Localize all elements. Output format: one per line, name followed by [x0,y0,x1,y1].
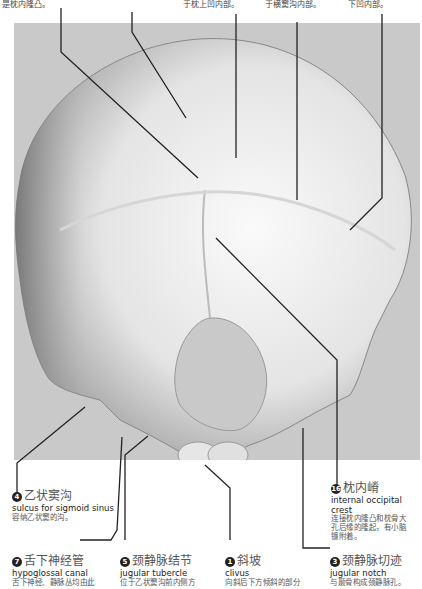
label-zh: 颈静脉切迹 [342,555,402,569]
label-hypoglossal-canal: 7 舌下神经管 hypoglossal canal 舌下神经、静脉丛均由此 [12,555,95,587]
label-zh: 枕内嵴 [343,482,379,496]
label-desc: 位于乙状窦沟前内侧方 [120,579,195,588]
label-jugular-tubercle: 5 颈静脉结节 jugular tubercle 位于乙状窦沟前内侧方 [120,555,195,587]
number-badge: 5 [120,557,130,567]
label-internal-occipital-crest: 16 枕内嵴 internal occipital crest 连接枕内隆凸和枕… [331,482,422,541]
label-en: internal occipital crest [331,496,422,516]
label-desc: 舌下神经、静脉丛均由此 [12,579,95,588]
label-desc: 向斜后下方倾斜的部分 [225,579,300,588]
number-badge: 16 [331,484,341,494]
number-badge: 1 [225,557,235,567]
label-desc: 容纳乙状窦的沟。 [12,514,114,523]
label-clivus: 1 斜坡 clivus 向斜后下方倾斜的部分 [225,555,300,587]
number-badge: 4 [12,492,22,502]
label-jugular-notch: 3 颈静脉切迹 jugular notch 与颞骨构成颈静脉孔。 [330,555,405,587]
label-sigmoid-sinus-sulcus: 4 乙状窦沟 sulcus for sigmoid sinus 容纳乙状窦的沟。 [12,490,114,522]
label-zh: 颈静脉结节 [132,555,192,569]
label-zh: 舌下神经管 [24,555,84,569]
number-badge: 7 [12,557,22,567]
number-badge: 3 [330,557,340,567]
label-desc: 与颞骨构成颈静脉孔。 [330,579,405,588]
label-zh: 斜坡 [237,555,261,569]
label-desc-line-3: 镰附着。 [331,533,422,542]
label-zh: 乙状窦沟 [24,490,72,504]
